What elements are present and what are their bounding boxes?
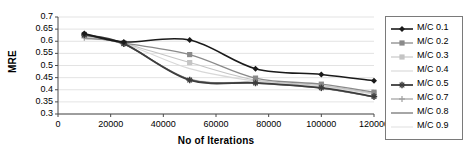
x-axis-title: No of Iterations (58, 135, 374, 146)
legend-item-label: M/C 0.5 (415, 79, 449, 88)
legend-item-label: M/C 0.9 (415, 121, 449, 130)
legend-item-label: M/C 0.4 (415, 65, 449, 74)
y-tick-label: 0.7 (19, 12, 53, 21)
y-tick-label: 0.65 (19, 24, 53, 33)
y-axis-title: MRE (7, 39, 18, 85)
data-point-marker (253, 66, 259, 72)
legend-swatch-icon (389, 35, 415, 47)
legend-item-label: M/C 0.7 (415, 93, 449, 102)
data-point-marker (399, 82, 405, 88)
legend-item-m-c-0-8[interactable]: M/C 0.8 (388, 104, 460, 118)
legend-swatch-icon (389, 49, 415, 61)
legend-item-m-c-0-1[interactable]: M/C 0.1 (388, 20, 460, 34)
legend-swatch-icon (389, 119, 415, 131)
data-point-marker (187, 37, 193, 43)
series-m-c-0-1 (81, 30, 377, 83)
y-tick-label: 0.4 (19, 85, 53, 94)
x-tick-label: 40000 (135, 120, 191, 129)
y-tick-label: 0.55 (19, 48, 53, 57)
legend-item-m-c-0-5[interactable]: M/C 0.5 (388, 76, 460, 90)
data-point-marker (399, 54, 404, 59)
data-point-marker (399, 26, 405, 32)
x-tick-label: 80000 (241, 120, 297, 129)
x-tick-label: 20000 (83, 120, 139, 129)
data-point-marker (399, 96, 405, 102)
y-tick-label: 0.45 (19, 73, 53, 82)
legend-item-label: M/C 0.1 (415, 23, 449, 32)
chart-root: MRE No of Iterations 0.70.650.60.550.50.… (0, 0, 468, 154)
legend-swatch-icon (389, 105, 415, 117)
legend-swatch-icon (389, 77, 415, 89)
data-point-marker (371, 78, 377, 84)
legend-item-label: M/C 0.3 (415, 51, 449, 60)
chart-svg (0, 0, 380, 154)
data-point-marker (252, 80, 258, 86)
chart-legend: M/C 0.1M/C 0.2M/C 0.3M/C 0.4M/C 0.5M/C 0… (385, 16, 463, 140)
x-tick-label: 0 (30, 120, 86, 129)
data-point-marker (318, 85, 324, 91)
y-tick-label: 0.5 (19, 61, 53, 70)
y-tick-label: 0.6 (19, 36, 53, 45)
data-point-marker (371, 93, 377, 99)
legend-item-label: M/C 0.2 (415, 37, 449, 46)
x-tick-label: 60000 (188, 120, 244, 129)
legend-swatch-icon (389, 91, 415, 103)
data-point-marker (318, 71, 324, 77)
legend-item-m-c-0-9[interactable]: M/C 0.9 (388, 118, 460, 132)
legend-item-m-c-0-4[interactable]: M/C 0.4 (388, 62, 460, 76)
legend-swatch-icon (389, 21, 415, 33)
y-tick-label: 0.3 (19, 109, 53, 118)
legend-item-label: M/C 0.8 (415, 107, 449, 116)
data-point-marker (187, 52, 192, 57)
legend-swatch-icon (389, 63, 415, 75)
y-tick-label: 0.35 (19, 97, 53, 106)
legend-item-m-c-0-2[interactable]: M/C 0.2 (388, 34, 460, 48)
data-point-marker (187, 60, 192, 65)
chart-plot-area: MRE No of Iterations 0.70.650.60.550.50.… (0, 0, 380, 154)
data-point-marker (186, 77, 192, 83)
legend-item-m-c-0-7[interactable]: M/C 0.7 (388, 90, 460, 104)
x-tick-label: 100000 (293, 120, 349, 129)
data-point-marker (399, 40, 404, 45)
legend-item-m-c-0-3[interactable]: M/C 0.3 (388, 48, 460, 62)
